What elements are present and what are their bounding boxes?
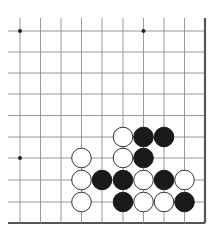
stones-layer — [72, 127, 195, 212]
white-stone — [175, 170, 195, 190]
star-point — [18, 29, 22, 33]
black-stone — [92, 170, 112, 190]
black-stone — [154, 170, 174, 190]
star-point — [18, 156, 22, 160]
black-stone — [113, 192, 133, 212]
white-stone — [72, 192, 92, 212]
white-stone — [72, 170, 92, 190]
black-stone — [134, 148, 154, 168]
white-stone — [113, 127, 133, 147]
white-stone — [72, 148, 92, 168]
white-stone — [134, 170, 154, 190]
go-board — [0, 0, 212, 238]
black-stone — [113, 170, 133, 190]
black-stone — [154, 127, 174, 147]
board-grid — [8, 18, 205, 223]
white-stone — [154, 192, 174, 212]
black-stone — [175, 192, 195, 212]
star-point — [142, 29, 146, 33]
white-stone — [134, 192, 154, 212]
black-stone — [134, 127, 154, 147]
white-stone — [113, 148, 133, 168]
